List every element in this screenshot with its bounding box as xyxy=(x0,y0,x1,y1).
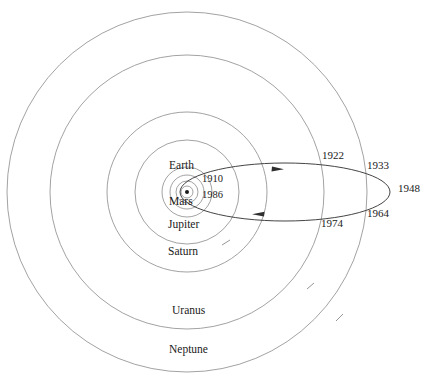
planet-label-saturn: Saturn xyxy=(168,246,198,258)
year-label-1964: 1964 xyxy=(367,208,389,219)
orbit-diagram-figure: Earth Mars Jupiter Saturn Uranus Neptune… xyxy=(0,0,432,381)
planet-label-neptune: Neptune xyxy=(169,344,208,356)
planet-label-earth: Earth xyxy=(169,160,194,172)
year-label-1910: 1910 xyxy=(202,174,223,185)
uranus-direction-tick xyxy=(307,283,314,289)
sun-dot-icon xyxy=(185,190,189,194)
year-label-1948: 1948 xyxy=(398,183,420,194)
planet-label-mars: Mars xyxy=(169,196,193,208)
year-label-1922: 1922 xyxy=(322,150,344,161)
neptune-direction-tick xyxy=(336,314,343,321)
comet-direction-arrow-upper xyxy=(272,167,285,172)
planet-label-uranus: Uranus xyxy=(172,305,205,317)
saturn-direction-tick xyxy=(222,240,230,245)
year-label-1974: 1974 xyxy=(321,218,343,229)
planet-label-jupiter: Jupiter xyxy=(168,219,199,231)
sun-marker xyxy=(185,190,189,194)
year-label-1933: 1933 xyxy=(367,160,389,171)
comet-direction-arrow-lower xyxy=(252,212,265,217)
year-label-1986: 1986 xyxy=(202,190,223,201)
